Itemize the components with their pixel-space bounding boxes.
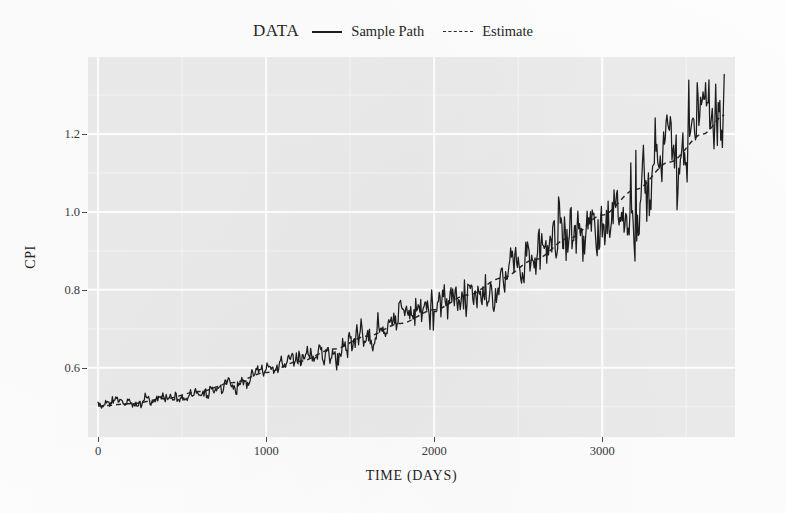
- chart-figure: DATA Sample Path Estimate CPI 0.60.81.01…: [0, 0, 786, 513]
- x-axis-tick-mark: [434, 437, 435, 442]
- grid-major-lines: [88, 57, 735, 437]
- y-axis-tick-marks: [0, 57, 88, 437]
- legend-label-sample-path: Sample Path: [351, 23, 424, 40]
- x-axis-tick-label: 1000: [231, 444, 301, 459]
- series-line-estimate: [98, 115, 724, 406]
- legend-entry-estimate[interactable]: Estimate: [443, 23, 533, 40]
- y-axis-tick-mark: [82, 134, 87, 135]
- legend-entry-sample-path[interactable]: Sample Path: [312, 23, 424, 40]
- y-axis-tick-mark: [82, 290, 87, 291]
- x-axis-tick-mark: [602, 437, 603, 442]
- plot-panel: [88, 57, 735, 437]
- plot-area: [88, 57, 735, 437]
- grid-minor-lines: [88, 57, 735, 437]
- y-axis-tick-mark: [82, 212, 87, 213]
- x-axis-tick-marks: [88, 437, 735, 443]
- x-axis-tick-label: 3000: [567, 444, 637, 459]
- chart-legend: DATA Sample Path Estimate: [0, 16, 786, 46]
- x-axis-tick-labels: 0100020003000: [88, 444, 735, 464]
- x-axis-tick-label: 0: [63, 444, 133, 459]
- solid-line-icon: [312, 24, 342, 38]
- dashed-line-icon: [443, 24, 473, 38]
- y-axis-tick-mark: [82, 368, 87, 369]
- x-axis-title: TIME (DAYS): [88, 468, 735, 484]
- x-axis-tick-label: 2000: [399, 444, 469, 459]
- legend-title: DATA: [253, 21, 299, 41]
- x-axis-tick-mark: [266, 437, 267, 442]
- x-axis-tick-mark: [98, 437, 99, 442]
- series-line-sample-path: [98, 74, 724, 408]
- legend-label-estimate: Estimate: [482, 23, 533, 40]
